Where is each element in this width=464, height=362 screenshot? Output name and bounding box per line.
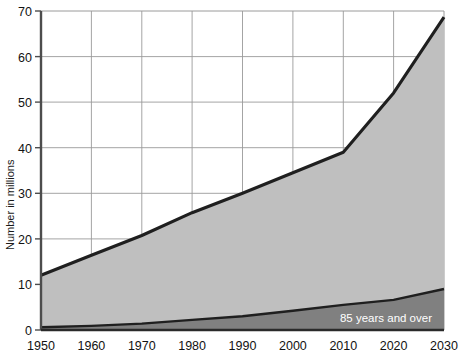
xtick-label-2020: 2020 [380,339,408,353]
xtick-label-1950: 1950 [27,339,55,353]
ytick-label-10: 10 [18,278,32,292]
ytick-label-20: 20 [18,233,32,247]
xtick-label-2000: 2000 [279,339,307,353]
ytick-label-70: 70 [18,5,32,19]
ytick-label-50: 50 [18,96,32,110]
xtick-label-1970: 1970 [128,339,156,353]
xtick-label-1980: 1980 [178,339,206,353]
chart-figure: 70 60 50 40 30 20 10 0 Number in million… [0,0,464,362]
ytick-label-0: 0 [25,324,32,338]
area-chart: 70 60 50 40 30 20 10 0 Number in million… [0,0,464,362]
xtick-label-1990: 1990 [229,339,257,353]
y-axis-title: Number in millions [4,159,16,250]
xtick-label-2010: 2010 [329,339,357,353]
ytick-label-40: 40 [18,142,32,156]
xtick-label-1960: 1960 [77,339,105,353]
xtick-label-2030: 2030 [430,339,458,353]
ytick-label-60: 60 [18,51,32,65]
ytick-label-30: 30 [18,187,32,201]
series-annotation-85-plus: 85 years and over [340,312,432,324]
x-axis-tick-labels: 1950 1960 1970 1980 1990 2000 2010 2020 … [27,339,458,353]
